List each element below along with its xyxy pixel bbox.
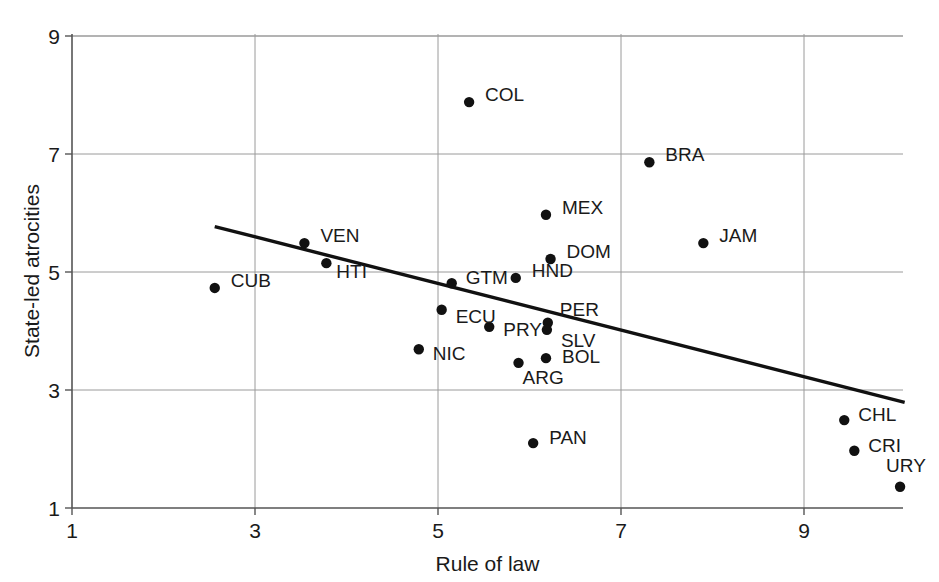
x-tick-label: 9 xyxy=(798,520,810,541)
point-label-chl: CHL xyxy=(858,405,896,424)
point-label-pan: PAN xyxy=(549,428,587,447)
y-tick-label: 9 xyxy=(48,26,60,47)
data-point[interactable] xyxy=(895,482,905,492)
data-point[interactable] xyxy=(541,210,551,220)
point-label-jam: JAM xyxy=(719,226,757,245)
point-label-gtm: GTM xyxy=(466,268,508,287)
point-label-cri: CRI xyxy=(868,436,901,455)
data-point[interactable] xyxy=(849,446,859,456)
x-tick-label: 1 xyxy=(66,520,78,541)
point-label-bra: BRA xyxy=(665,145,704,164)
point-label-col: COL xyxy=(485,85,524,104)
x-tick-label: 7 xyxy=(615,520,627,541)
data-point[interactable] xyxy=(839,415,849,425)
data-point[interactable] xyxy=(436,305,446,315)
point-label-hnd: HND xyxy=(532,261,573,280)
data-point[interactable] xyxy=(511,273,521,283)
data-point[interactable] xyxy=(447,278,457,288)
x-tick-label: 3 xyxy=(249,520,261,541)
point-label-ury: URY xyxy=(886,456,926,475)
x-axis-title: Rule of law xyxy=(436,552,540,576)
scatter-chart-figure: 1357913579 COLBRAMEXJAMDOMVENHTICUBHNDGT… xyxy=(0,0,939,582)
point-label-per: PER xyxy=(560,300,599,319)
data-point[interactable] xyxy=(299,238,309,248)
point-label-nic: NIC xyxy=(433,344,466,363)
x-tick-label: 5 xyxy=(432,520,444,541)
y-tick-label: 7 xyxy=(48,144,60,165)
data-point[interactable] xyxy=(528,438,538,448)
point-label-hti: HTI xyxy=(336,262,367,281)
point-label-mex: MEX xyxy=(562,198,603,217)
y-tick-label: 5 xyxy=(48,262,60,283)
data-point[interactable] xyxy=(698,238,708,248)
data-point[interactable] xyxy=(210,283,220,293)
point-label-ecu: ECU xyxy=(456,307,496,326)
y-tick-label: 1 xyxy=(48,498,60,519)
data-point[interactable] xyxy=(321,258,331,268)
data-point[interactable] xyxy=(542,325,552,335)
point-label-pry: PRY xyxy=(503,320,542,339)
data-point[interactable] xyxy=(414,344,424,354)
data-point[interactable] xyxy=(541,353,551,363)
y-axis-title: State-led atrocities xyxy=(20,184,44,358)
point-label-ven: VEN xyxy=(320,226,359,245)
data-point[interactable] xyxy=(644,157,654,167)
point-label-arg: ARG xyxy=(523,368,564,387)
point-label-cub: CUB xyxy=(231,271,271,290)
point-label-dom: DOM xyxy=(567,242,611,261)
point-label-bol: BOL xyxy=(562,347,600,366)
y-tick-label: 3 xyxy=(48,380,60,401)
plot-canvas xyxy=(0,0,939,582)
data-point[interactable] xyxy=(464,97,474,107)
